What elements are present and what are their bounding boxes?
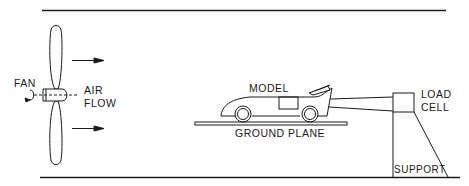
load-cell-label-line2: CELL xyxy=(421,101,449,113)
ground-plane-shape xyxy=(195,122,347,125)
support-label: SUPPORT xyxy=(394,164,446,176)
sting-arm xyxy=(329,97,393,111)
fan-label: FAN xyxy=(14,77,36,89)
wind-tunnel-diagram: FAN AIR FLOW MODEL GROUND PLANE LOAD CEL… xyxy=(0,0,469,186)
load-cell-shape xyxy=(393,93,414,112)
ground-plane-label: GROUND PLANE xyxy=(235,127,325,139)
diagram-drawing xyxy=(0,0,469,186)
air-flow-label-line2: FLOW xyxy=(84,97,116,109)
fan-icon xyxy=(25,26,78,165)
load-cell-label-line1: LOAD xyxy=(421,88,452,100)
model-label: MODEL xyxy=(249,82,289,94)
air-flow-label-line1: AIR xyxy=(84,84,103,96)
